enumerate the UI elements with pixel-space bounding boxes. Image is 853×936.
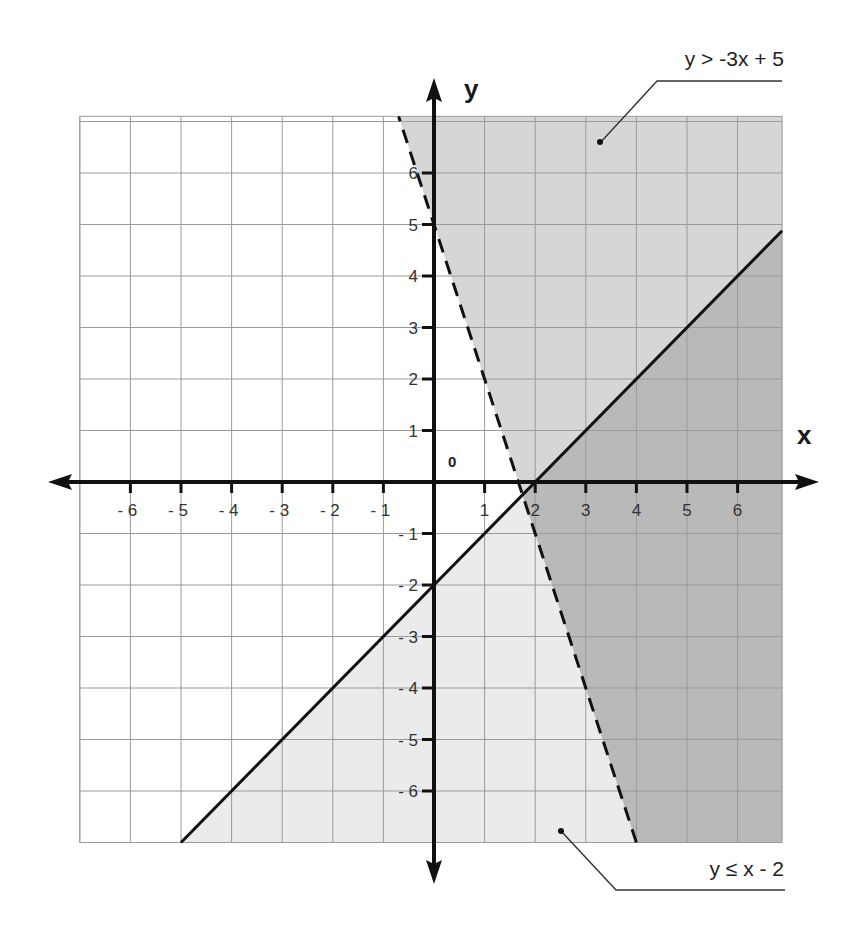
x-tick-label: 3 <box>581 501 590 520</box>
x-tick-label: - 3 <box>269 501 289 520</box>
y-tick-label: - 4 <box>398 679 418 698</box>
annotation-bottom-label: y ≤ x - 2 <box>709 857 784 880</box>
annotation-top-label: y > -3x + 5 <box>685 47 784 70</box>
x-tick-label: 1 <box>480 501 489 520</box>
y-tick-label: 4 <box>409 267 418 286</box>
y-tick-label: - 2 <box>398 576 418 595</box>
x-tick-label: 5 <box>682 501 691 520</box>
y-tick-label: 2 <box>409 370 418 389</box>
y-tick-label: 5 <box>409 216 418 235</box>
y-axis-label: y <box>464 74 479 104</box>
x-tick-label: - 6 <box>117 501 137 520</box>
y-tick-label: 3 <box>409 319 418 338</box>
x-axis-label: x <box>797 420 812 450</box>
y-tick-label: - 1 <box>398 525 418 544</box>
shaded-regions <box>181 116 782 842</box>
x-tick-label: 2 <box>530 501 539 520</box>
x-tick-label: - 2 <box>320 501 340 520</box>
y-tick-label: - 6 <box>398 782 418 801</box>
origin-label: 0 <box>448 453 456 470</box>
y-tick-label: - 3 <box>398 628 418 647</box>
x-tick-label: 4 <box>632 501 641 520</box>
y-tick-label: - 5 <box>398 731 418 750</box>
y-tick-label: 6 <box>409 164 418 183</box>
annotation-top-dot <box>597 139 603 145</box>
x-tick-label: - 1 <box>370 501 390 520</box>
annotation-bottom-dot <box>558 828 564 834</box>
inequality-chart: - 6- 5- 4- 3- 2- 1123456654321- 1- 2- 3-… <box>0 0 853 936</box>
x-tick-label: - 5 <box>168 501 188 520</box>
y-tick-label: 1 <box>409 422 418 441</box>
x-tick-label: - 4 <box>219 501 239 520</box>
x-tick-label: 6 <box>733 501 742 520</box>
